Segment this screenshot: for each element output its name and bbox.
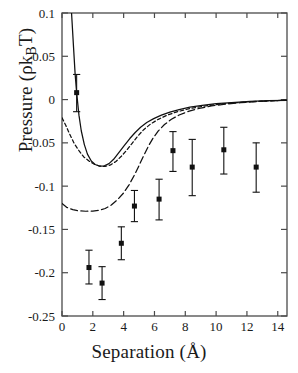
y-axis-label: Pressure (ρkBT) [15, 0, 39, 195]
data-point-marker [86, 265, 91, 270]
data-point-markers [74, 90, 259, 285]
y-tick-label: -0.2 [34, 265, 55, 280]
k-symbol: k [15, 55, 36, 65]
x-tick-label: 14 [271, 319, 285, 334]
pressure-vs-separation-chart: 02468101214 0.10.050-0.05-0.1-0.15-0.2-0… [0, 0, 298, 373]
x-axis-tick-labels: 02468101214 [59, 319, 285, 334]
y-tick-label: -0.25 [28, 309, 55, 324]
data-point-marker [119, 241, 124, 246]
long-dashed-theory-curve [62, 100, 287, 211]
data-point-marker [221, 147, 226, 152]
x-tick-label: 2 [90, 319, 97, 334]
y-axis-label-suffix: ) [15, 28, 36, 35]
x-tick-label: 0 [59, 319, 66, 334]
rho-symbol: ρ [15, 65, 36, 75]
x-tick-label: 8 [182, 319, 189, 334]
data-point-marker [254, 165, 259, 170]
figure-container: 02468101214 0.10.050-0.05-0.1-0.15-0.2-0… [0, 0, 298, 373]
data-point-marker [132, 204, 137, 209]
x-tick-label: 6 [151, 319, 158, 334]
x-tick-label: 10 [210, 319, 223, 334]
y-tick-label: 0.1 [39, 6, 55, 21]
y-tick-label: 0 [49, 92, 56, 107]
data-point-marker [157, 197, 162, 202]
theory-curves [62, 13, 287, 211]
data-point-marker [170, 148, 175, 153]
x-tick-label: 4 [120, 319, 127, 334]
x-axis-label: Separation (Å) [0, 341, 298, 363]
data-point-marker [190, 165, 195, 170]
t-symbol: T [15, 34, 36, 46]
error-bars [73, 74, 260, 299]
subscript-b: B [23, 46, 38, 55]
x-tick-label: 12 [240, 319, 253, 334]
data-point-marker [74, 90, 79, 95]
y-tick-label: -0.15 [28, 222, 55, 237]
data-point-marker [100, 281, 105, 286]
y-axis-label-prefix: Pressure ( [15, 75, 36, 152]
